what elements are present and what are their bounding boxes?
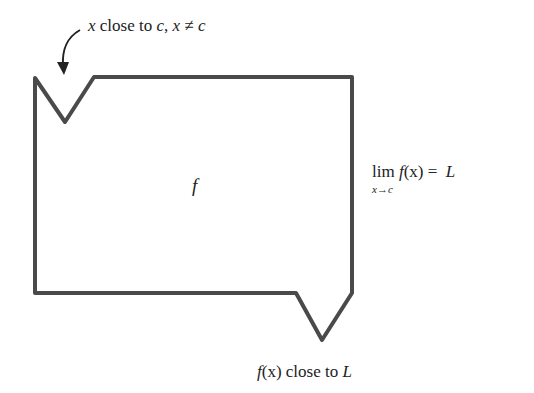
limit-value: L (446, 162, 455, 181)
output-close-to-text: close to (282, 362, 343, 381)
function-label: f (192, 176, 197, 195)
x-var: x (88, 16, 96, 35)
output-value: L (342, 362, 351, 381)
input-arrow-icon (57, 30, 80, 75)
x-var-2: x (173, 16, 181, 35)
sub-target: c (388, 183, 393, 195)
input-annotation: x close to c, x ≠ c (88, 17, 205, 34)
function-machine-diagram (0, 0, 534, 393)
equals-sign: = (423, 162, 441, 181)
c-var-2: c (198, 16, 206, 35)
not-equal-sign: ≠ (180, 16, 198, 35)
limit-arg: (x) (404, 162, 424, 181)
function-box-outline (35, 77, 352, 340)
c-var: c (156, 16, 164, 35)
output-arg: (x) (262, 362, 282, 381)
output-annotation: f(x) close to L (257, 363, 352, 380)
arrow-right-icon: → (377, 183, 388, 195)
lim-operator: lim (372, 162, 395, 181)
comma: , (164, 16, 173, 35)
limit-subscript: x→c (372, 184, 455, 195)
limit-expression: lim f(x) = L x→c (372, 163, 455, 195)
close-to-text: close to (96, 16, 157, 35)
